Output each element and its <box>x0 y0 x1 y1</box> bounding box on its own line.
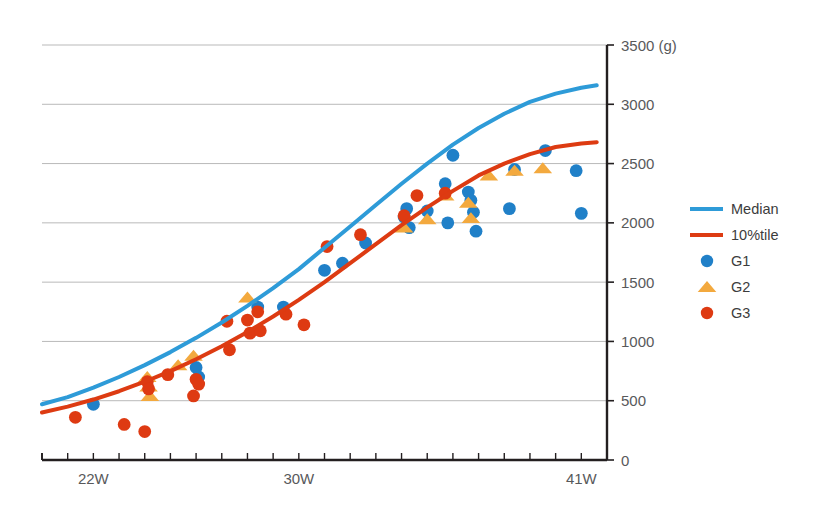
gridlines-group <box>42 45 607 401</box>
chart-container: 22W30W41W 0500100015002000250030003500 (… <box>0 0 833 507</box>
data-point-g2-12 <box>505 165 524 176</box>
data-point-g1-5 <box>318 264 331 277</box>
legend-label: G2 <box>731 279 750 295</box>
data-point-g3-18 <box>354 228 367 241</box>
y-tick-label-1000: 1000 <box>621 333 654 350</box>
series-group <box>42 85 597 438</box>
legend-label: G1 <box>731 253 750 269</box>
x-tick-label-22W: 22W <box>78 470 110 487</box>
legend-item-g1[interactable]: G1 <box>701 253 751 269</box>
legend-item-10-tile[interactable]: 10%tile <box>690 227 779 243</box>
legend-label: 10%tile <box>731 227 779 243</box>
y-tick-label-2500: 2500 <box>621 155 654 172</box>
data-point-g1-14 <box>447 149 460 162</box>
data-point-g1-23 <box>575 207 588 220</box>
data-point-g2-7 <box>418 213 437 224</box>
legend-swatch-circle <box>701 255 713 267</box>
data-point-g3-0 <box>69 411 82 424</box>
legend: Median10%tileG1G2G3 <box>690 201 779 321</box>
y-tick-label-3500: 3500 (g) <box>621 37 677 54</box>
data-point-g3-16 <box>298 318 311 331</box>
legend-item-g3[interactable]: G3 <box>701 305 751 321</box>
data-point-g1-13 <box>441 216 454 229</box>
x-tick-label-41W: 41W <box>566 470 598 487</box>
legend-item-g2[interactable]: G2 <box>698 279 751 295</box>
data-point-g3-8 <box>192 378 205 391</box>
legend-swatch-triangle <box>698 281 717 292</box>
legend-label: Median <box>731 201 779 217</box>
data-point-g3-1 <box>118 418 131 431</box>
y-tick-label-500: 500 <box>621 392 646 409</box>
data-point-g3-2 <box>138 425 151 438</box>
series-line-median <box>42 85 597 404</box>
y-tick-label-3000: 3000 <box>621 96 654 113</box>
legend-label: G3 <box>731 305 750 321</box>
x-tick-label-30W: 30W <box>283 470 315 487</box>
data-point-g3-6 <box>187 390 200 403</box>
y-tick-label-0: 0 <box>621 452 629 469</box>
data-point-g3-13 <box>251 305 264 318</box>
legend-item-median[interactable]: Median <box>690 201 779 217</box>
x-tick-labels-group: 22W30W41W <box>78 470 598 487</box>
scatter-chart: 22W30W41W 0500100015002000250030003500 (… <box>0 0 833 507</box>
data-point-g3-11 <box>241 314 254 327</box>
data-point-g3-4 <box>142 382 155 395</box>
y-tick-label-1500: 1500 <box>621 274 654 291</box>
data-point-g1-18 <box>470 225 483 238</box>
data-point-g1-19 <box>503 202 516 215</box>
y-tick-labels-group: 0500100015002000250030003500 (g) <box>621 37 677 469</box>
data-point-g1-22 <box>570 164 583 177</box>
series-g1-points <box>87 144 588 411</box>
legend-swatch-circle <box>701 307 713 319</box>
y-tick-label-2000: 2000 <box>621 214 654 231</box>
data-point-g3-20 <box>411 189 424 202</box>
